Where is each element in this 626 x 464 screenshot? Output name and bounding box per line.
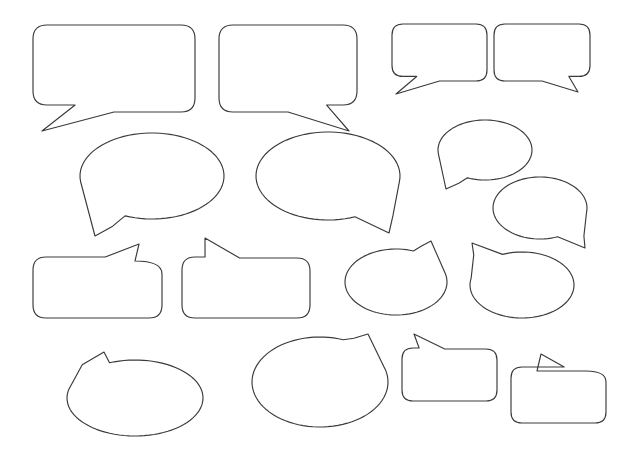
bubble-collection-svg [0, 0, 626, 464]
speech-bubble-canvas [0, 0, 626, 464]
